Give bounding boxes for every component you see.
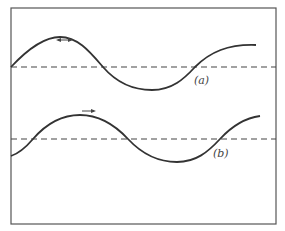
- wave-a-curve: [11, 37, 256, 90]
- wave-a-group: (a): [11, 37, 276, 90]
- wave-a-label: (a): [194, 74, 209, 87]
- diagram-frame: [11, 8, 276, 224]
- wave-b-label: (b): [213, 147, 229, 160]
- arrow-left-icon: [56, 38, 61, 42]
- wave-diagram: (a) (b): [0, 0, 285, 231]
- wave-b-direction-arrow: [82, 109, 96, 113]
- arrow-right-icon: [91, 109, 96, 113]
- wave-b-group: (b): [11, 109, 276, 162]
